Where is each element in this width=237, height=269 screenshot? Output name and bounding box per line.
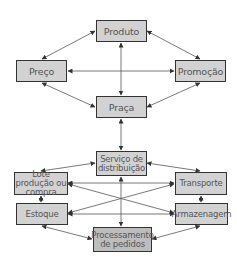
edge-servico-transporte: [147, 163, 200, 171]
edge-preco-praca: [42, 83, 95, 107]
node-armazenagem: Armazenagem: [175, 203, 228, 225]
node-preco: Preço: [16, 60, 67, 82]
edge-promocao-praca: [147, 83, 200, 107]
node-produto: Produto: [96, 20, 147, 42]
edge-armazenagem-processamento: [152, 226, 200, 239]
node-processamento-pedidos: Processamento de pedidos: [93, 227, 152, 252]
node-transporte: Transporte: [175, 172, 227, 195]
node-estoque: Estoque: [16, 203, 68, 225]
edge-produto-promocao: [147, 31, 200, 59]
edge-estoque-processamento: [42, 226, 92, 239]
node-promocao: Promoção: [175, 60, 226, 82]
edge-produto-preco: [42, 31, 95, 59]
node-lote-producao: Lote produção ou compra: [14, 172, 68, 195]
node-praca: Praça: [96, 96, 147, 118]
node-servico-distribuicao: Serviço de distribuição: [96, 151, 147, 176]
